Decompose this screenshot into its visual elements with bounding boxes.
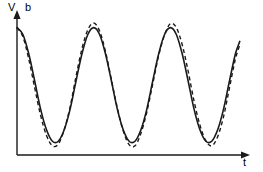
series-solid-wave: [17, 28, 240, 143]
series-group: [17, 23, 240, 147]
y-axis-label-secondary: b: [25, 2, 31, 13]
series-dashed-wave: [17, 23, 240, 147]
plot-canvas: [0, 0, 263, 172]
y-axis-label-primary: V: [8, 2, 15, 13]
oscillation-figure: V b t: [0, 0, 263, 172]
x-axis-label: t: [243, 157, 246, 168]
